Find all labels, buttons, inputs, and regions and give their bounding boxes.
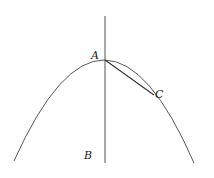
chord-ac	[105, 60, 154, 95]
label-b: B	[83, 149, 92, 162]
label-a: A	[90, 49, 99, 62]
parabola-curve	[14, 60, 194, 163]
label-c: C	[155, 88, 164, 101]
diagram-canvas: A B C	[0, 0, 214, 178]
